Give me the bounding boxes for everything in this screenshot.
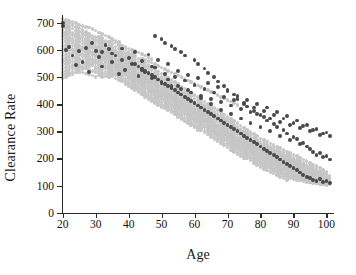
data-point xyxy=(255,157,259,161)
data-point xyxy=(239,129,243,133)
data-point xyxy=(94,29,98,33)
data-point xyxy=(176,69,180,73)
data-point xyxy=(321,132,325,136)
data-point xyxy=(255,160,259,164)
data-point xyxy=(236,127,240,131)
data-point xyxy=(173,97,177,101)
data-point xyxy=(97,54,101,58)
data-point xyxy=(239,140,243,144)
data-point xyxy=(77,51,81,55)
data-point xyxy=(265,154,269,158)
data-point xyxy=(150,68,154,72)
data-point xyxy=(160,75,164,79)
data-point xyxy=(311,173,315,177)
data-point xyxy=(87,62,91,66)
data-point xyxy=(117,62,121,66)
data-point xyxy=(143,61,147,65)
data-point xyxy=(87,55,91,59)
data-point xyxy=(255,151,259,155)
data-point xyxy=(226,129,230,133)
data-point xyxy=(275,150,279,154)
data-point xyxy=(222,137,226,141)
data-point xyxy=(275,159,279,163)
data-point xyxy=(186,89,190,93)
data-point xyxy=(292,175,296,179)
data-point xyxy=(186,115,190,119)
data-point xyxy=(209,104,213,108)
data-point xyxy=(292,161,296,165)
data-point xyxy=(275,162,279,166)
data-point xyxy=(226,146,230,150)
data-point xyxy=(91,40,95,44)
data-point xyxy=(120,64,124,68)
data-point xyxy=(196,84,200,88)
data-point xyxy=(249,133,253,137)
data-point xyxy=(170,109,174,113)
data-point xyxy=(229,125,233,129)
data-point xyxy=(232,133,236,137)
data-point xyxy=(130,72,134,76)
data-point xyxy=(232,140,236,144)
data-point xyxy=(275,154,279,158)
data-point xyxy=(295,168,299,172)
data-point xyxy=(288,172,292,176)
data-point xyxy=(160,83,164,87)
data-point xyxy=(94,61,98,65)
data-point xyxy=(298,171,302,175)
data-point xyxy=(321,173,325,177)
data-point xyxy=(321,180,325,184)
data-point xyxy=(110,55,114,59)
data-point xyxy=(222,129,226,133)
data-point xyxy=(64,46,68,50)
data-point xyxy=(170,99,174,103)
data-point xyxy=(305,174,309,178)
data-point xyxy=(269,145,273,149)
data-point xyxy=(183,98,187,102)
data-point xyxy=(166,92,170,96)
data-point xyxy=(255,141,259,145)
data-point xyxy=(236,130,240,134)
data-point xyxy=(232,134,236,138)
data-point xyxy=(120,46,124,50)
data-point xyxy=(153,90,157,94)
data-point xyxy=(77,57,81,61)
data-point xyxy=(143,81,147,85)
data-point xyxy=(213,125,217,129)
data-point xyxy=(206,113,210,117)
data-point xyxy=(140,68,144,72)
y-tick-mark xyxy=(57,104,62,105)
data-point xyxy=(160,92,164,96)
data-point xyxy=(173,72,177,76)
data-point xyxy=(298,159,302,163)
data-point xyxy=(81,71,85,75)
data-point xyxy=(114,66,118,70)
data-point xyxy=(242,151,246,155)
data-point xyxy=(275,165,279,169)
data-point xyxy=(255,154,259,158)
data-point xyxy=(196,99,200,103)
data-point xyxy=(97,55,101,59)
data-point xyxy=(209,97,213,101)
data-point xyxy=(166,86,170,90)
data-point xyxy=(318,151,322,155)
data-point xyxy=(305,165,309,169)
data-point xyxy=(193,119,197,123)
data-point xyxy=(229,137,233,141)
data-point xyxy=(107,65,111,69)
data-point xyxy=(153,75,157,79)
data-point xyxy=(278,153,282,157)
data-point xyxy=(259,165,263,169)
data-point xyxy=(226,123,230,127)
data-point xyxy=(288,161,292,165)
data-point xyxy=(186,107,190,111)
data-point xyxy=(203,114,207,118)
data-point xyxy=(325,172,329,176)
data-point xyxy=(176,115,180,119)
data-point xyxy=(226,125,230,129)
data-point xyxy=(166,94,170,98)
data-point xyxy=(180,113,184,117)
data-point xyxy=(232,143,236,147)
data-point xyxy=(193,101,197,105)
data-point xyxy=(265,151,269,155)
data-point xyxy=(203,87,207,91)
